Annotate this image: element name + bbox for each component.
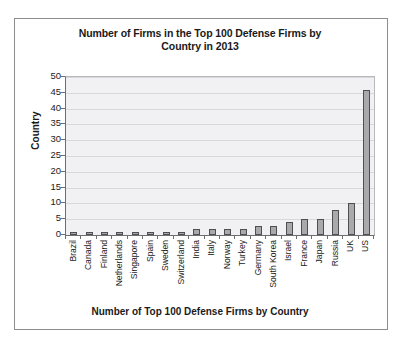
x-axis-tick-label: UK bbox=[346, 240, 355, 252]
bar-slot bbox=[251, 77, 266, 235]
x-axis-label-slot: Switzerland bbox=[173, 240, 188, 302]
y-axis-tick-mark bbox=[61, 108, 65, 109]
y-axis-tick-label: 35 bbox=[37, 117, 61, 128]
bar-slot bbox=[143, 77, 158, 235]
y-axis-tick-mark bbox=[61, 123, 65, 124]
bar-slot bbox=[235, 77, 250, 235]
x-axis-tick-mark bbox=[311, 235, 312, 239]
y-axis-tick-mark bbox=[61, 155, 65, 156]
y-axis-tick-label: 5 bbox=[37, 212, 61, 223]
bar-slot bbox=[282, 77, 297, 235]
bar[interactable] bbox=[301, 219, 308, 235]
x-axis-tick-label: Brazil bbox=[68, 240, 77, 262]
x-axis-tick-mark bbox=[250, 235, 251, 239]
x-axis-tick-mark bbox=[265, 235, 266, 239]
x-axis-label-slot: India bbox=[188, 240, 203, 302]
bar-slot bbox=[359, 77, 374, 235]
y-axis-tick-mark bbox=[61, 234, 65, 235]
x-axis-label-slot: UK bbox=[342, 240, 357, 302]
x-axis-tick-mark bbox=[358, 235, 359, 239]
x-axis-tick-labels: BrazilCanadaFinlandNetherlandsSingaporeS… bbox=[65, 240, 373, 302]
x-axis-tick-label: Sweden bbox=[161, 240, 170, 271]
x-axis-tick-mark bbox=[373, 235, 374, 239]
y-axis-tick-labels: 05101520253035404550 bbox=[35, 76, 61, 234]
bar-slot bbox=[189, 77, 204, 235]
plot-area bbox=[65, 76, 375, 236]
y-axis-tick-label: 15 bbox=[37, 181, 61, 192]
x-axis-label-slot: Brazil bbox=[65, 240, 80, 302]
x-axis-tick-mark bbox=[127, 235, 128, 239]
x-axis-label-slot: South Korea bbox=[265, 240, 280, 302]
y-axis-tick-mark bbox=[61, 218, 65, 219]
x-axis-tick-mark bbox=[204, 235, 205, 239]
y-axis-tick-mark bbox=[61, 139, 65, 140]
x-axis-tick-mark bbox=[327, 235, 328, 239]
bar[interactable] bbox=[270, 226, 277, 235]
x-axis-tick-label: India bbox=[191, 240, 200, 259]
x-axis-label-slot: Norway bbox=[219, 240, 234, 302]
bar-slot bbox=[174, 77, 189, 235]
x-axis-title: Number of Top 100 Defense Firms by Count… bbox=[24, 306, 376, 317]
bar-slot bbox=[205, 77, 220, 235]
x-axis-tick-mark bbox=[65, 235, 66, 239]
y-axis-tick-label: 0 bbox=[37, 228, 61, 239]
x-axis-tick-label: Italy bbox=[207, 240, 216, 256]
x-axis-tick-mark bbox=[111, 235, 112, 239]
x-axis-label-slot: Italy bbox=[204, 240, 219, 302]
x-axis-tick-label: Netherlands bbox=[114, 240, 123, 286]
y-axis-tick-mark bbox=[61, 202, 65, 203]
x-axis-tick-mark bbox=[281, 235, 282, 239]
x-axis-tick-mark bbox=[173, 235, 174, 239]
bar-slot bbox=[66, 77, 81, 235]
y-axis-tick-label: 25 bbox=[37, 149, 61, 160]
x-axis-tick-mark bbox=[296, 235, 297, 239]
x-axis-tick-label: South Korea bbox=[268, 240, 277, 288]
bar[interactable] bbox=[286, 222, 293, 235]
x-axis-tick-label: Singapore bbox=[130, 240, 139, 279]
bar[interactable] bbox=[363, 90, 370, 235]
x-axis-label-slot: US bbox=[358, 240, 373, 302]
bar-slot bbox=[158, 77, 173, 235]
x-axis-label-slot: France bbox=[296, 240, 311, 302]
y-axis-tick-mark bbox=[61, 76, 65, 77]
x-axis-tick-label: Israel bbox=[284, 240, 293, 261]
y-axis-tick-label: 20 bbox=[37, 165, 61, 176]
y-axis-tick-mark bbox=[61, 187, 65, 188]
y-axis-tick-label: 10 bbox=[37, 196, 61, 207]
x-axis-tick-mark bbox=[157, 235, 158, 239]
x-axis-tick-label: Russia bbox=[330, 240, 339, 266]
x-axis-tick-label: Switzerland bbox=[176, 240, 185, 284]
bar-slot bbox=[128, 77, 143, 235]
bar-slot bbox=[313, 77, 328, 235]
bar[interactable] bbox=[348, 203, 355, 235]
x-axis-tick-mark bbox=[188, 235, 189, 239]
x-axis-label-slot: Canada bbox=[80, 240, 95, 302]
x-axis-label-slot: Germany bbox=[250, 240, 265, 302]
x-axis-label-slot: Singapore bbox=[127, 240, 142, 302]
x-axis-tick-label: Canada bbox=[84, 240, 93, 270]
x-axis-tick-label: France bbox=[299, 240, 308, 267]
x-axis-label-slot: Russia bbox=[327, 240, 342, 302]
x-axis-tick-marks bbox=[65, 235, 375, 239]
y-axis-tick-label: 40 bbox=[37, 102, 61, 113]
x-axis-tick-mark bbox=[219, 235, 220, 239]
x-axis-label-slot: Finland bbox=[96, 240, 111, 302]
bar[interactable] bbox=[255, 226, 262, 235]
bar-slot bbox=[297, 77, 312, 235]
x-axis-tick-label: Japan bbox=[315, 240, 324, 263]
x-axis-tick-label: Turkey bbox=[238, 240, 247, 266]
chart-title-line-2: Country in 2013 bbox=[24, 40, 376, 53]
x-axis-tick-mark bbox=[96, 235, 97, 239]
bar-slot bbox=[266, 77, 281, 235]
bar[interactable] bbox=[317, 219, 324, 235]
x-axis-label-slot: Turkey bbox=[234, 240, 249, 302]
x-axis-label-slot: Sweden bbox=[157, 240, 172, 302]
bar-slot bbox=[328, 77, 343, 235]
x-axis-label-slot: Israel bbox=[281, 240, 296, 302]
bar-slot bbox=[112, 77, 127, 235]
bar[interactable] bbox=[332, 210, 339, 235]
y-axis-tick-label: 30 bbox=[37, 133, 61, 144]
y-axis-tick-label: 45 bbox=[37, 86, 61, 97]
x-axis-tick-mark bbox=[142, 235, 143, 239]
x-axis-label-slot: Netherlands bbox=[111, 240, 126, 302]
